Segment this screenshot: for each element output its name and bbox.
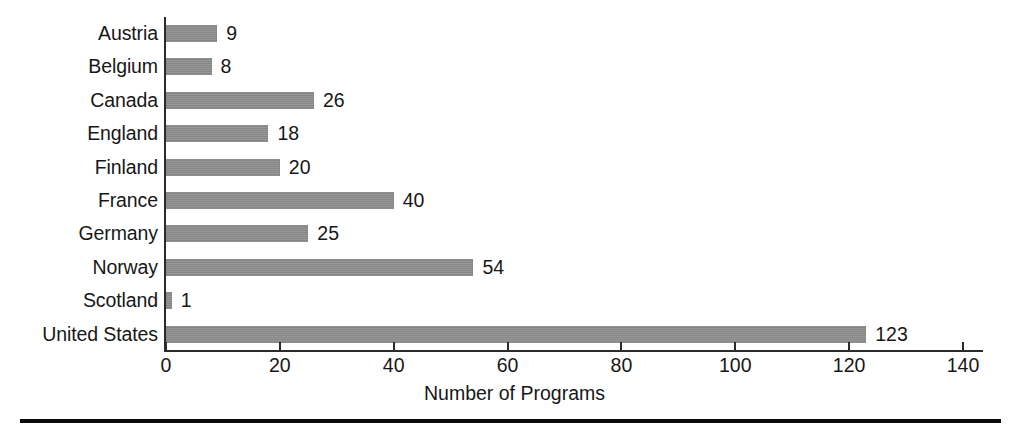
x-axis-tick xyxy=(279,342,281,351)
x-axis-title-text: Number of Programs xyxy=(424,382,605,404)
bar-category-label: England xyxy=(87,117,158,150)
bar-value-label: 8 xyxy=(221,50,232,83)
bar-row: England18 xyxy=(0,117,1019,150)
bar xyxy=(166,292,172,309)
bar-fill xyxy=(166,259,473,276)
bar-value-label: 25 xyxy=(317,217,339,250)
bar-row: Scotland1 xyxy=(0,284,1019,317)
bar xyxy=(166,92,314,109)
bar-category-label: Belgium xyxy=(88,50,158,83)
bar-category-label: Germany xyxy=(79,217,159,250)
bar-category-label: France xyxy=(98,184,158,217)
bar-row: Germany25 xyxy=(0,217,1019,250)
bar-row: Belgium8 xyxy=(0,50,1019,83)
x-axis-tick xyxy=(620,342,622,351)
x-axis-tick xyxy=(507,342,509,351)
x-axis-tick xyxy=(165,342,167,351)
x-axis-tick-label: 80 xyxy=(611,354,633,377)
x-axis-tick-label: 100 xyxy=(719,354,752,377)
bar-chart-figure: Austria9Belgium8Canada26England18Finland… xyxy=(0,0,1019,436)
x-axis-tick-label: 120 xyxy=(833,354,866,377)
bar-value-label: 1 xyxy=(181,284,192,317)
x-axis-tick-label: 0 xyxy=(161,354,172,377)
x-axis-tick-label: 60 xyxy=(497,354,519,377)
bar-category-label: Canada xyxy=(90,84,158,117)
bar-fill xyxy=(166,225,308,242)
x-axis-tick-label: 40 xyxy=(383,354,405,377)
x-axis-tick xyxy=(848,342,850,351)
bar-category-label: Austria xyxy=(98,17,158,50)
bar xyxy=(166,125,268,142)
x-axis-tick xyxy=(734,342,736,351)
bar-fill xyxy=(166,326,866,343)
bar-value-label: 9 xyxy=(226,17,237,50)
bar-row: Norway54 xyxy=(0,251,1019,284)
bar-fill xyxy=(166,125,268,142)
bar-row: Finland20 xyxy=(0,151,1019,184)
bar xyxy=(166,259,473,276)
bar-fill xyxy=(166,25,217,42)
bar-row: Austria9 xyxy=(0,17,1019,50)
footer-rule xyxy=(20,419,1001,423)
bar-row: France40 xyxy=(0,184,1019,217)
bar-fill xyxy=(166,292,172,309)
bar-fill xyxy=(166,159,280,176)
x-axis-tick xyxy=(962,342,964,351)
bar xyxy=(166,192,394,209)
bar-category-label: United States xyxy=(42,318,158,351)
bar-row: United States123 xyxy=(0,318,1019,351)
bar xyxy=(166,58,212,75)
bar-value-label: 123 xyxy=(875,318,908,351)
bar-category-label: Finland xyxy=(95,151,158,184)
bar-value-label: 20 xyxy=(289,151,311,184)
x-axis-line xyxy=(164,350,983,352)
bar xyxy=(166,159,280,176)
bar-row: Canada26 xyxy=(0,84,1019,117)
x-axis-tick-label: 20 xyxy=(269,354,291,377)
bar xyxy=(166,225,308,242)
bar-category-label: Scotland xyxy=(83,284,158,317)
x-axis-title: Number of Programs xyxy=(0,382,1019,405)
bar-category-label: Norway xyxy=(93,251,159,284)
bar xyxy=(166,326,866,343)
bar-value-label: 18 xyxy=(277,117,299,150)
bar-fill xyxy=(166,192,394,209)
bar-value-label: 40 xyxy=(403,184,425,217)
x-axis-tick xyxy=(393,342,395,351)
bar xyxy=(166,25,217,42)
bar-value-label: 26 xyxy=(323,84,345,117)
bar-value-label: 54 xyxy=(482,251,504,284)
bar-fill xyxy=(166,92,314,109)
plot-area: Austria9Belgium8Canada26England18Finland… xyxy=(0,0,1019,400)
bar-fill xyxy=(166,58,212,75)
x-axis-tick-label: 140 xyxy=(947,354,980,377)
